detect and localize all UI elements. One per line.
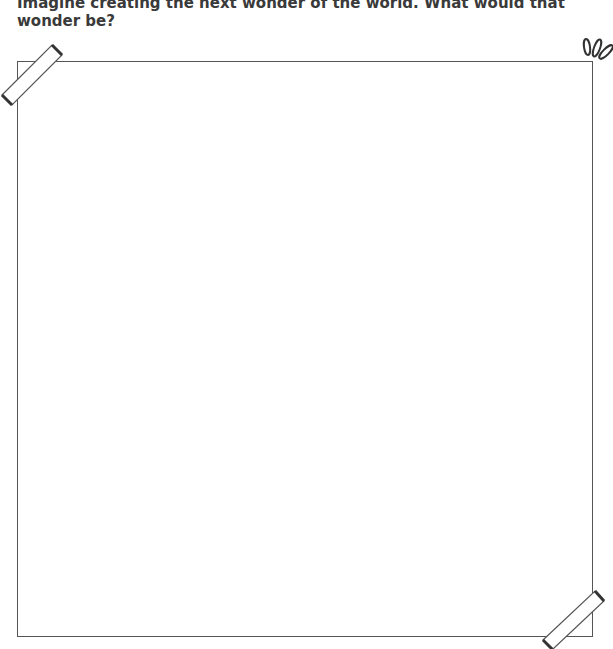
tape-top-left-icon: [2, 45, 62, 105]
decorations: [0, 0, 613, 649]
tape-bottom-right-icon: [543, 591, 604, 649]
sparkle-icon: [583, 39, 613, 61]
